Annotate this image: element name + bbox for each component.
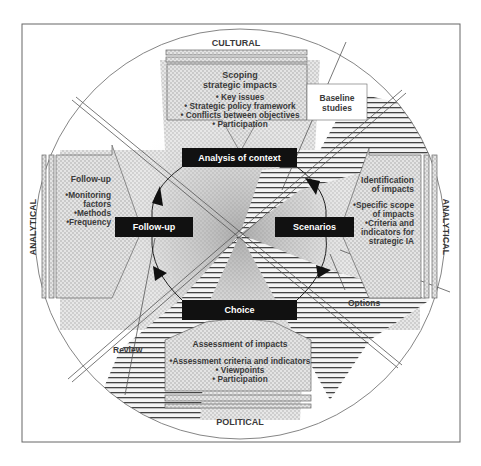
review-label: Review	[113, 345, 143, 355]
options-label: Options	[348, 298, 380, 308]
baseline-label-1: Baseline	[320, 93, 355, 103]
baseline-label-2: studies	[322, 103, 352, 113]
right-bar-2	[432, 155, 437, 298]
top-bar-2	[166, 57, 307, 62]
stage-choice: Choice	[182, 300, 297, 320]
bottom-bar-2	[165, 404, 311, 408]
stage-follow-up: Follow-up	[115, 217, 193, 237]
stage-scenarios-label: Scenarios	[293, 222, 336, 232]
dimension-left-label: ANALYTICAL	[28, 199, 38, 256]
svg-text:• Participation: • Participation	[212, 374, 267, 384]
svg-text:•Frequency: •Frequency	[66, 217, 111, 227]
stage-choice-label: Choice	[224, 305, 254, 315]
left-bar-1	[42, 155, 46, 298]
right-bar-1	[424, 155, 429, 298]
bottom-callout-title: Assessment of impacts	[193, 339, 288, 349]
bottom-bar-1	[165, 395, 311, 401]
top-callout-title-1: Scoping	[222, 70, 258, 80]
stage-analysis-of-context: Analysis of context	[182, 148, 297, 167]
dimension-bottom-label: POLITICAL	[216, 417, 264, 427]
left-bullet-3: Frequency	[69, 217, 111, 227]
stage-follow-up-label: Follow-up	[133, 222, 176, 232]
bottom-bullet-3: Participation	[217, 374, 267, 384]
baseline-label-box: Baseline studies	[307, 84, 367, 120]
diagram-canvas: Scoping strategic impacts • Key issues •…	[0, 0, 481, 466]
top-bar-1	[166, 50, 307, 55]
left-callout-title: Follow-up	[71, 174, 111, 184]
stage-analysis-label: Analysis of context	[198, 153, 281, 163]
stage-scenarios: Scenarios	[275, 217, 354, 237]
svg-text:• Participation: • Participation	[212, 119, 267, 129]
left-bar-2	[49, 155, 54, 298]
right-bullet-2-cont-2: strategic IA	[369, 236, 414, 246]
dimension-right-label: ANALYTICAL	[441, 199, 451, 256]
top-callout-title-2: strategic impacts	[203, 80, 277, 90]
right-callout-title-2: of impacts	[371, 184, 414, 194]
top-bullet-4: Participation	[217, 119, 267, 129]
dimension-top-label: CULTURAL	[212, 38, 261, 48]
